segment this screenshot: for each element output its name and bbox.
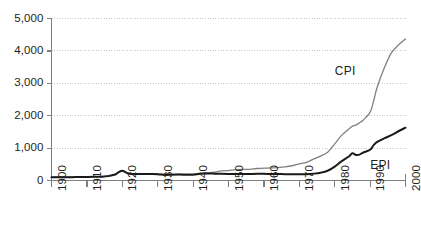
x-tick-label-1930: 1930 <box>163 165 175 191</box>
y-tick-label-5000: 5,000 <box>14 13 43 25</box>
x-tick-label-1940: 1940 <box>198 165 210 191</box>
series-line-cpi <box>52 39 406 177</box>
line-chart-canvas <box>0 0 421 225</box>
y-tick-label-0: 0 <box>37 175 44 187</box>
y-tick-label-1000: 1,000 <box>14 142 43 154</box>
x-tick-label-1950: 1950 <box>234 165 246 191</box>
y-tick-label-4000: 4,000 <box>14 45 43 57</box>
x-tick-label-1980: 1980 <box>340 165 352 191</box>
chart-container: 01,0002,0003,0004,0005,000 1900191019201… <box>0 0 421 225</box>
x-tick-label-1910: 1910 <box>92 165 104 191</box>
gridlines-group <box>52 19 406 149</box>
y-tick-label-3000: 3,000 <box>14 77 43 89</box>
series-line-epi <box>52 128 406 178</box>
series-lines-group <box>52 39 406 177</box>
x-tick-label-1900: 1900 <box>57 165 69 191</box>
axis-lines-group <box>52 19 406 181</box>
x-tick-label-2000: 2000 <box>411 165 421 191</box>
x-tick-label-1920: 1920 <box>127 165 139 191</box>
x-tick-label-1970: 1970 <box>304 165 316 191</box>
series-annotation-epi: EPI <box>370 159 390 171</box>
y-tick-label-2000: 2,000 <box>14 110 43 122</box>
series-annotation-cpi: CPI <box>335 65 356 77</box>
x-tick-label-1960: 1960 <box>269 165 281 191</box>
x-axis-ticks-group <box>52 181 406 187</box>
